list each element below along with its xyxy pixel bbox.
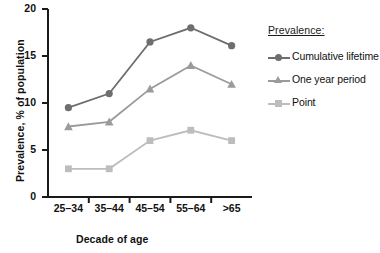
figure-container: 05101520 25–3435–4445–5455–64>65 Prevale…	[0, 0, 380, 253]
legend-item-circle[interactable]: Cumulative lifetime	[268, 50, 380, 64]
x-tick-label: >65	[202, 202, 262, 214]
data-point-circle	[228, 42, 235, 49]
legend-label: One year period	[292, 73, 366, 86]
chart-legend: Prevalence: Cumulative lifetimeOne year …	[268, 24, 380, 119]
legend-entries: Cumulative lifetimeOne year periodPoint	[268, 50, 380, 110]
y-tick-label: 20	[14, 2, 36, 14]
data-point-triangle	[227, 80, 236, 88]
legend-item-triangle[interactable]: One year period	[268, 73, 380, 87]
data-point-circle	[187, 24, 194, 31]
legend-label: Cumulative lifetime	[292, 50, 379, 63]
legend-symbol-square-icon	[275, 100, 282, 107]
legend-marker-circle-icon	[268, 51, 290, 64]
data-point-triangle	[187, 61, 196, 69]
series-2	[64, 61, 236, 130]
series-line	[68, 130, 231, 169]
legend-marker-triangle-icon	[268, 74, 290, 87]
data-series-layer	[64, 24, 236, 172]
legend-symbol-triangle-icon	[274, 76, 282, 83]
legend-marker-square-icon	[268, 97, 290, 110]
legend-title: Prevalence:	[268, 24, 380, 36]
legend-label: Point	[292, 96, 315, 109]
y-axis-title: Prevalence, % of population	[14, 39, 26, 182]
x-axis-title: Decade of age	[76, 233, 149, 245]
data-point-square	[106, 165, 113, 172]
series-line	[68, 65, 231, 126]
series-3	[65, 127, 235, 172]
legend-symbol-circle-icon	[275, 54, 282, 61]
data-point-circle	[146, 38, 153, 45]
data-point-square	[65, 165, 72, 172]
data-point-square	[187, 127, 194, 134]
data-point-circle	[106, 90, 113, 97]
legend-item-square[interactable]: Point	[268, 96, 380, 110]
y-tick-label: 0	[14, 190, 36, 202]
data-point-circle	[65, 104, 72, 111]
series-1	[65, 24, 235, 111]
data-point-triangle	[146, 85, 155, 93]
data-point-square	[228, 137, 235, 144]
data-point-square	[147, 137, 154, 144]
